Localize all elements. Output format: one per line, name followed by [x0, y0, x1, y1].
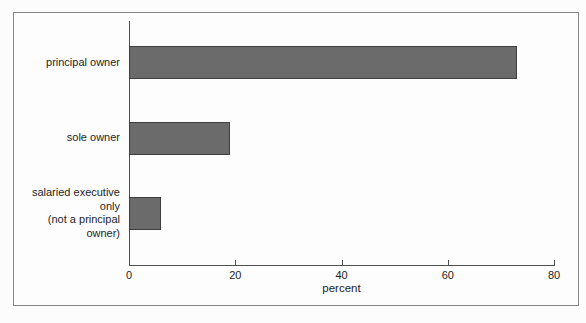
tick-label: 40 — [335, 269, 347, 281]
category-label: principal owner — [46, 56, 120, 70]
bar-salaried-executive-only — [129, 197, 161, 230]
bar-sole-owner — [129, 122, 230, 155]
tick-label: 80 — [548, 269, 560, 281]
bar-principal-owner — [129, 46, 517, 79]
tick-label: 0 — [126, 269, 132, 281]
tick-label: 20 — [229, 269, 241, 281]
x-axis-title: percent — [322, 282, 360, 294]
tick-mark — [554, 260, 555, 265]
category-label: sole owner — [67, 131, 120, 145]
tick-mark — [448, 260, 449, 265]
tick-mark — [235, 260, 236, 265]
plot-area: 020406080 principal ownersole ownersalar… — [14, 13, 578, 305]
tick-label: 60 — [442, 269, 454, 281]
category-label: salaried executive only (not a principal… — [14, 186, 120, 240]
x-axis-line — [129, 265, 555, 266]
chart-figure: 020406080 principal ownersole ownersalar… — [13, 12, 579, 306]
tick-mark — [129, 260, 130, 265]
tick-mark — [342, 260, 343, 265]
